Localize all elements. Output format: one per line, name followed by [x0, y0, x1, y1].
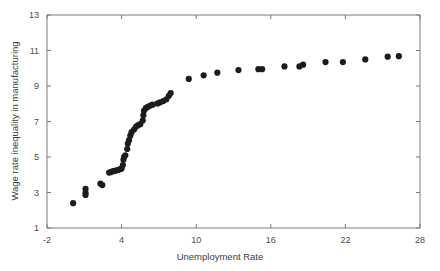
y-tick-label: 7 [34, 117, 39, 127]
data-point [120, 162, 126, 168]
data-point [70, 200, 76, 206]
data-point [385, 54, 391, 60]
data-point [322, 59, 328, 65]
y-tick-label: 1 [34, 223, 39, 233]
data-point [340, 59, 346, 65]
data-point [214, 70, 220, 76]
data-point [235, 67, 241, 73]
data-point [186, 76, 192, 82]
data-point [122, 152, 128, 158]
y-tick-label: 9 [34, 81, 39, 91]
x-tick-label: 28 [415, 235, 425, 245]
scatter-plot-figure: -2410162228 135791113 Unemployment Rate … [0, 0, 440, 271]
data-point [201, 72, 207, 78]
y-tick-label: 13 [29, 10, 39, 20]
x-tick-label: 4 [119, 235, 124, 245]
x-tick-label: 16 [266, 235, 276, 245]
x-axis-title: Unemployment Rate [177, 251, 264, 262]
chart-canvas: -2410162228 135791113 Unemployment Rate … [0, 0, 440, 271]
x-tick-label: -2 [43, 235, 51, 245]
data-point [168, 90, 174, 96]
chart-background [0, 0, 440, 271]
y-tick-label: 5 [34, 152, 39, 162]
x-tick-label: 22 [340, 235, 350, 245]
data-point [259, 66, 265, 72]
data-point [362, 56, 368, 62]
data-point [281, 63, 287, 69]
data-point [396, 53, 402, 59]
data-point [82, 192, 88, 198]
data-point [140, 118, 146, 124]
y-axis-title: Wage rate inequality in manufacturing [9, 41, 20, 200]
data-point [124, 146, 130, 152]
x-tick-label: 10 [191, 235, 201, 245]
data-point [99, 182, 105, 188]
data-point [300, 62, 306, 68]
y-tick-label: 3 [34, 188, 39, 198]
y-tick-label: 11 [30, 46, 39, 56]
